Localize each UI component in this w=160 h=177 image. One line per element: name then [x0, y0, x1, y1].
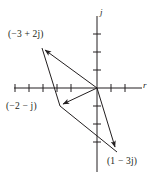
real-axis-label: r	[143, 80, 147, 90]
vector-label-minus2-minusj: (−2 − j)	[6, 101, 37, 111]
edge-v1-to-v2	[42, 48, 60, 106]
vector-diagram-canvas	[0, 0, 160, 177]
complex-plane-figure: (−3 + 2j) (−2 − j) (1 − 3j) r j	[0, 0, 160, 177]
imaginary-axis-label: j	[100, 7, 103, 17]
vector-label-minus3-plus2j: (−3 + 2j)	[8, 29, 44, 39]
edge-v2-to-v3	[60, 106, 117, 152]
vector-minus2-minusj	[63, 88, 97, 104]
vector-label-1-minus3j: (1 − 3j)	[107, 156, 137, 166]
